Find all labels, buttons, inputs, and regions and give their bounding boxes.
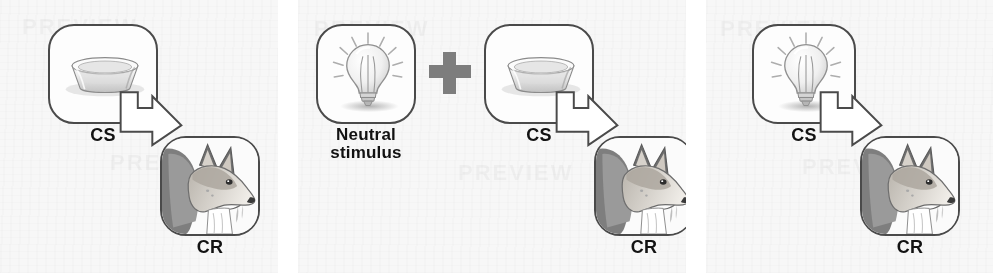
plus-icon [429,52,471,94]
salivating-dog-icon [862,138,958,234]
cr-card-inner [596,138,686,234]
neutral-card-inner [318,26,414,122]
panel-during-conditioning: PREVIEW PREVIEW Neutral stimulus CS [298,0,686,273]
plus-bar-vertical [443,52,456,94]
panel-divider [686,0,706,273]
panel-after-conditioning: PREVIEW PREVIEW CS CR [706,0,993,273]
cr-card-dog[interactable] [594,136,686,236]
watermark: PREVIEW [458,160,573,186]
neutral-stimulus-card-bulb[interactable] [316,24,416,124]
cr-label: CR [594,238,686,257]
cr-card-inner [862,138,958,234]
cr-card-inner [162,138,258,234]
cr-label: CR [860,238,960,257]
panel-divider [278,0,298,273]
cr-label: CR [160,238,260,257]
light-bulb-icon [324,30,412,118]
figure-root: PREVIEW PREVIEW CS CR PR [0,0,993,273]
salivating-dog-icon [596,138,686,234]
cr-card-dog[interactable] [860,136,960,236]
panel-before-conditioning: PREVIEW PREVIEW CS CR [0,0,278,273]
salivating-dog-icon [162,138,258,234]
neutral-stimulus-label: Neutral stimulus [304,126,428,163]
cr-card-dog[interactable] [160,136,260,236]
